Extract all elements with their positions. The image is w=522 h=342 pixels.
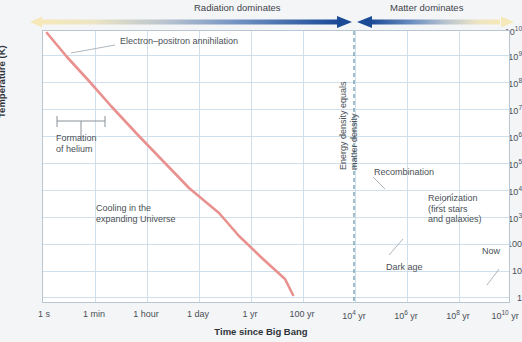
- plot-area: [42, 30, 510, 303]
- annotation-line: Reionization: [428, 193, 482, 204]
- radiation-arrow: [30, 16, 352, 28]
- annotation-electron-positron: Electron–positron annihilation: [120, 36, 238, 47]
- annotation-line: matter density: [349, 81, 360, 170]
- leader-line-recombination: [373, 177, 385, 189]
- annotation-formation-of-helium: Formation of helium: [56, 133, 97, 154]
- annotation-line: Formation: [56, 133, 97, 144]
- x-tick-label: 1 yr: [242, 309, 257, 319]
- x-tick-label: 106 yr: [394, 309, 418, 321]
- x-axis-title: Time since Big Bang: [0, 326, 522, 337]
- leader-line-electron-positron: [71, 45, 115, 53]
- temperature-history-figure: Radiation dominates Matter dominates Tem…: [0, 0, 522, 342]
- annotation-line: of helium: [56, 144, 97, 155]
- annotation-reionization: Reionization (first stars and galaxies): [428, 193, 482, 225]
- x-tick-label: 1 hour: [133, 309, 159, 319]
- leader-line-now: [487, 269, 499, 285]
- x-tick-label: 1 s: [38, 309, 50, 319]
- annotation-recombination: Recombination: [374, 167, 434, 178]
- y-axis-title: Temperature (K): [0, 45, 7, 118]
- x-tick-label: 1 min: [83, 309, 105, 319]
- x-tick-label: 1 day: [187, 309, 209, 319]
- annotation-line: (first stars: [428, 204, 482, 215]
- x-tick-label: 104 yr: [342, 309, 366, 321]
- radiation-dominates-label: Radiation dominates: [194, 2, 281, 13]
- annotation-line: and galaxies): [428, 214, 482, 225]
- chart-canvas: [43, 31, 511, 304]
- annotation-line: Cooling in the: [96, 203, 176, 214]
- annotation-cooling: Cooling in the expanding Universe: [96, 203, 176, 224]
- matter-dominates-label: Matter dominates: [390, 2, 463, 13]
- annotation-line: expanding Universe: [96, 214, 176, 225]
- annotation-line: Energy density equals: [338, 81, 349, 170]
- x-tick-label: 1010 yr: [491, 309, 518, 321]
- x-tick-label: 100 yr: [289, 309, 314, 319]
- annotation-dark-age: Dark age: [386, 262, 423, 273]
- annotation-energy-density-equals-matter-density: Energy density equals matter density: [338, 81, 360, 170]
- temperature-curve: [47, 33, 293, 295]
- annotation-now: Now: [482, 246, 500, 257]
- x-tick-label: 108 yr: [446, 309, 470, 321]
- leader-line-dark-age: [389, 239, 403, 255]
